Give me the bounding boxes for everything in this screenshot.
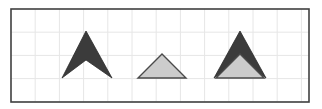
- figure-canvas: [0, 0, 322, 109]
- shapes-diagram: [0, 0, 322, 109]
